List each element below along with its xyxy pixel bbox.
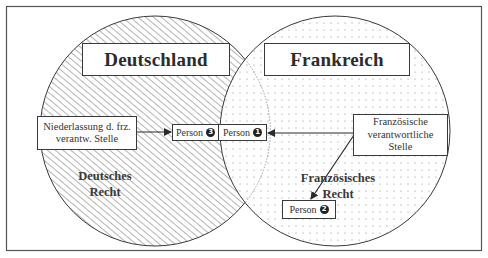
french-law-line1: Französisches: [290, 170, 386, 186]
person-2-box: Person 2: [282, 200, 336, 219]
french-body-line2: verantwortliche: [368, 129, 434, 142]
number-2-icon: 2: [320, 205, 329, 214]
niederlassung-box: Niederlassung d. frz. verantw. Stelle: [37, 116, 137, 150]
person-1-box: Person 1: [218, 124, 267, 141]
person-3-box: Person 3: [172, 124, 219, 141]
person-2-label: Person: [289, 204, 316, 215]
french-law-label: Französisches Recht: [290, 170, 386, 202]
person-3-label: Person: [176, 127, 203, 138]
german-law-line2: Recht: [65, 184, 145, 200]
french-law-line2: Recht: [290, 186, 386, 202]
france-title-box: Frankreich: [264, 43, 410, 76]
german-law-label: Deutsches Recht: [65, 168, 145, 200]
niederlassung-line1: Niederlassung d. frz.: [43, 121, 130, 134]
number-3-icon: 3: [206, 128, 215, 137]
niederlassung-line2: verantw. Stelle: [56, 133, 118, 146]
france-title: Frankreich: [290, 49, 383, 71]
germany-title: Deutschland: [104, 49, 208, 71]
germany-title-box: Deutschland: [82, 43, 230, 76]
french-body-box: Französische verantwortliche Stelle: [353, 114, 448, 156]
french-body-line3: Stelle: [389, 141, 413, 154]
german-law-line1: Deutsches: [65, 168, 145, 184]
number-1-icon: 1: [253, 128, 262, 137]
french-body-line1: Französische: [373, 116, 428, 129]
person-1-label: Person: [223, 127, 250, 138]
